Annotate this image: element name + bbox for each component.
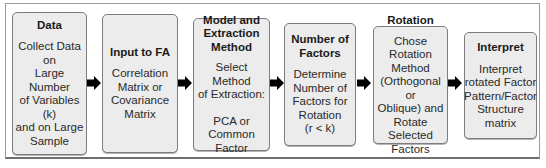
arrow-right-icon xyxy=(178,76,192,90)
step-title: Data xyxy=(37,19,62,33)
step-description: Chose Rotation Method (Orthogonal or Obl… xyxy=(375,35,446,157)
step-description: Determine Number of Factors for Rotation… xyxy=(293,68,348,136)
step-extra: PCA or Common Factor xyxy=(208,115,255,156)
step-description: Correlation Matrix or Covariance Matrix xyxy=(111,67,169,121)
step-title: Interpret xyxy=(477,41,524,55)
arrow-right-icon xyxy=(357,76,371,90)
step-data-box: Data Collect Data on Large Number of Var… xyxy=(12,12,87,155)
step-input-box: Input to FA Correlation Matrix or Covari… xyxy=(102,14,178,153)
arrow-right-icon xyxy=(270,76,284,90)
step-description: Interpret rotated Factor Pattern/Factor … xyxy=(464,63,537,131)
step-rotation-box: Rotation Chose Rotation Method (Orthogon… xyxy=(373,26,448,144)
step-description: Select Method of Extraction: xyxy=(195,61,268,102)
step-description: Collect Data on Large Number of Variable… xyxy=(14,40,85,148)
arrow-right-icon xyxy=(448,76,462,90)
step-extraction-box: Model and Extraction Method Select Metho… xyxy=(193,18,270,151)
step-title: Rotation xyxy=(387,14,434,28)
step-interpret-box: Interpret Interpret rotated Factor Patte… xyxy=(464,32,537,139)
step-title: Input to FA xyxy=(110,46,170,60)
step-title: Number of Factors xyxy=(291,33,349,60)
arrow-right-icon xyxy=(87,76,101,90)
step-title: Model and Extraction Method xyxy=(203,14,260,55)
step-factors-box: Number of Factors Determine Number of Fa… xyxy=(284,23,356,146)
